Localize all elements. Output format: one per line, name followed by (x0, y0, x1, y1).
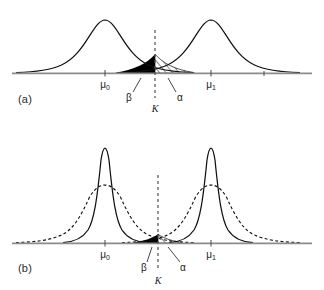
panel-b-label: (b) (18, 262, 32, 274)
alpha-leader-a (168, 78, 176, 92)
alpha-leader-b (168, 247, 180, 262)
beta-label-a: β (126, 92, 132, 103)
null-distribution-large-n-curve-b (63, 148, 147, 243)
alpha-label-b: α (180, 262, 186, 273)
mu0-label-a: μ0 (100, 79, 110, 91)
alternative-distribution-large-n-curve-b (169, 148, 253, 243)
mu1-label-a: μ1 (206, 79, 216, 91)
alternative-distribution-small-n-curve-b (122, 185, 300, 243)
panel-b: μ0 μ1 β α K (12, 148, 312, 286)
beta-leader-b (147, 247, 152, 262)
panel-a-label: (a) (18, 93, 32, 105)
k-label-b: K (154, 275, 163, 286)
k-label-a: K (151, 103, 160, 114)
alpha-region-a (155, 54, 194, 73)
beta-label-b: β (141, 262, 147, 273)
alpha-label-a: α (177, 92, 183, 103)
beta-leader-a (133, 78, 141, 92)
mu0-label-b: μ0 (100, 249, 110, 261)
null-distribution-small-n-curve-b (16, 185, 194, 243)
mu1-label-b: μ1 (206, 249, 216, 261)
figure-canvas: μ0 μ1 β α K (0, 0, 324, 290)
statistics-figure: μ0 μ1 β α K (0, 0, 324, 290)
panel-a: μ0 μ1 β α K (12, 20, 312, 114)
